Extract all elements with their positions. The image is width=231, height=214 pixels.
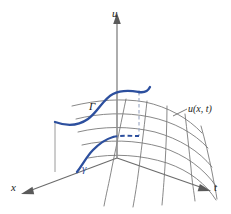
lifted-curve-label: Γ: [89, 101, 95, 112]
lifted-curve-gamma-upper: [55, 87, 150, 125]
axis-label-u: u: [112, 8, 118, 19]
figure-container: u x t u(x, t) Γ γ: [0, 0, 231, 214]
surface-label: u(x, t): [188, 104, 212, 114]
hidden-curve-segment: [113, 136, 139, 137]
axis-label-t: t: [214, 182, 217, 193]
axis-label-x: x: [11, 182, 16, 193]
axis-x: [21, 158, 117, 194]
base-curve-label: γ: [82, 163, 86, 174]
